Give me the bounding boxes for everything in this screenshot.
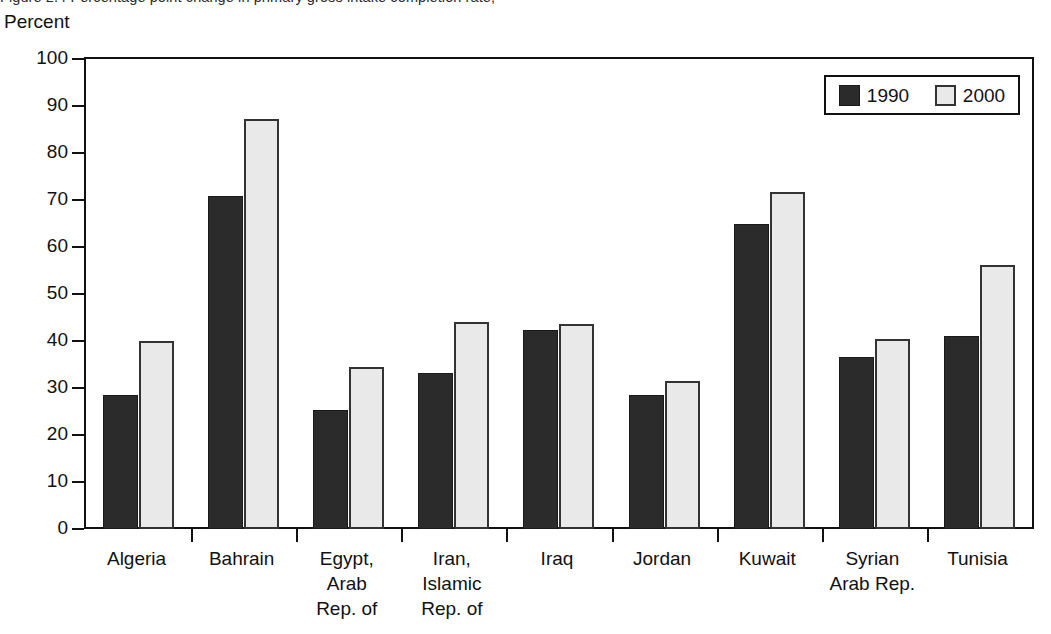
bar-2000 bbox=[980, 265, 1015, 529]
x-tick-mark bbox=[927, 529, 929, 542]
y-tick-mark bbox=[72, 434, 84, 436]
bar-1990 bbox=[103, 395, 138, 529]
x-tick-label: Tunisia bbox=[925, 546, 1030, 571]
y-tick-label: 30 bbox=[10, 377, 68, 396]
figure-caption-sliver: Figure 2.4 Percentage point change in pr… bbox=[0, 0, 1051, 8]
x-tick-mark bbox=[296, 529, 298, 542]
bar-1990 bbox=[523, 330, 558, 529]
x-tick-label: Algeria bbox=[84, 546, 189, 571]
bar-1990 bbox=[734, 224, 769, 530]
light-swatch-icon bbox=[935, 85, 956, 106]
x-tick-mark bbox=[401, 529, 403, 542]
x-tick-mark bbox=[506, 529, 508, 542]
bar-1990 bbox=[208, 196, 243, 529]
y-tick-label: 40 bbox=[10, 330, 68, 349]
y-tick-mark bbox=[72, 293, 84, 295]
bar-group bbox=[86, 59, 191, 529]
x-tick-label-line: Iran, bbox=[399, 546, 504, 571]
x-tick-label-line: Kuwait bbox=[715, 546, 820, 571]
y-axis-labels: 1009080706050403020100 bbox=[0, 57, 68, 529]
x-axis-labels: AlgeriaBahrainEgypt,ArabRep. ofIran,Isla… bbox=[84, 546, 1034, 634]
bar-2000 bbox=[665, 381, 700, 529]
bar-group bbox=[822, 59, 927, 529]
y-axis-title: Percent bbox=[4, 10, 69, 34]
y-tick-mark bbox=[72, 246, 84, 248]
x-tick-label-line: Bahrain bbox=[189, 546, 294, 571]
bar-2000 bbox=[244, 119, 279, 529]
y-tick-label: 80 bbox=[10, 142, 68, 161]
x-tick-label: Iraq bbox=[504, 546, 609, 571]
bar-group bbox=[927, 59, 1032, 529]
x-tick-label-line: Syrian bbox=[820, 546, 925, 571]
y-tick-mark bbox=[72, 58, 84, 60]
bar-2000 bbox=[349, 367, 384, 529]
bar-1990 bbox=[944, 336, 979, 529]
legend-entry-1990[interactable]: 1990 bbox=[839, 85, 909, 106]
x-tick-mark bbox=[822, 529, 824, 542]
y-tick-mark bbox=[72, 152, 84, 154]
bar-1990 bbox=[629, 395, 664, 529]
legend-label: 1990 bbox=[867, 86, 909, 105]
y-tick-mark bbox=[72, 481, 84, 483]
x-tick-label-line: Arab Rep. bbox=[820, 571, 925, 596]
x-tick-label: Egypt,ArabRep. of bbox=[294, 546, 399, 621]
x-tick-label: Bahrain bbox=[189, 546, 294, 571]
x-tick-label-line: Islamic bbox=[399, 571, 504, 596]
x-axis-tick-marks bbox=[84, 529, 1034, 545]
x-tick-mark bbox=[717, 529, 719, 542]
y-tick-mark bbox=[72, 199, 84, 201]
bar-group bbox=[506, 59, 611, 529]
y-tick-label: 50 bbox=[10, 283, 68, 302]
y-tick-label: 60 bbox=[10, 236, 68, 255]
bar-group bbox=[191, 59, 296, 529]
legend-label: 2000 bbox=[963, 86, 1005, 105]
y-tick-mark bbox=[72, 105, 84, 107]
x-tick-label-line: Egypt, bbox=[294, 546, 399, 571]
x-tick-mark bbox=[612, 529, 614, 542]
bar-group bbox=[612, 59, 717, 529]
bar-2000 bbox=[875, 339, 910, 529]
bar-1990 bbox=[839, 357, 874, 529]
bar-2000 bbox=[770, 192, 805, 529]
x-tick-label-line: Arab bbox=[294, 571, 399, 596]
bar-2000 bbox=[139, 341, 174, 529]
y-tick-label: 70 bbox=[10, 189, 68, 208]
x-tick-mark bbox=[191, 529, 193, 542]
y-tick-label: 10 bbox=[10, 471, 68, 490]
bar-group bbox=[401, 59, 506, 529]
x-tick-label-line: Jordan bbox=[610, 546, 715, 571]
x-tick-label-line: Rep. of bbox=[294, 596, 399, 621]
y-tick-mark bbox=[72, 528, 84, 530]
bars-layer bbox=[86, 59, 1032, 529]
x-tick-label: SyrianArab Rep. bbox=[820, 546, 925, 596]
x-tick-label-line: Iraq bbox=[504, 546, 609, 571]
y-tick-label: 20 bbox=[10, 424, 68, 443]
bar-1990 bbox=[313, 410, 348, 529]
x-tick-label-line: Tunisia bbox=[925, 546, 1030, 571]
y-tick-label: 90 bbox=[10, 95, 68, 114]
x-tick-label: Iran,IslamicRep. of bbox=[399, 546, 504, 621]
x-tick-label: Jordan bbox=[610, 546, 715, 571]
x-tick-label: Kuwait bbox=[715, 546, 820, 571]
bar-1990 bbox=[418, 373, 453, 529]
bar-2000 bbox=[454, 322, 489, 529]
x-tick-label-line: Rep. of bbox=[399, 596, 504, 621]
legend-entry-2000[interactable]: 2000 bbox=[935, 85, 1005, 106]
bar-2000 bbox=[559, 324, 594, 529]
y-tick-label: 0 bbox=[10, 518, 68, 537]
x-tick-label-line: Algeria bbox=[84, 546, 189, 571]
bar-group bbox=[296, 59, 401, 529]
y-tick-label: 100 bbox=[10, 48, 68, 67]
chart-legend: 19902000 bbox=[824, 75, 1020, 115]
y-tick-mark bbox=[72, 387, 84, 389]
bar-group bbox=[717, 59, 822, 529]
y-tick-mark bbox=[72, 340, 84, 342]
dark-swatch-icon bbox=[839, 85, 860, 106]
